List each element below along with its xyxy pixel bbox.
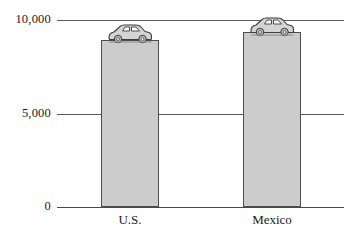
bar-us[interactable] [101, 40, 159, 207]
y-axis-labels: 10,000 5,000 0 [0, 20, 51, 207]
x-tick-label-us: U.S. [101, 212, 159, 228]
plot-area [57, 20, 344, 207]
bar-mexico[interactable] [243, 32, 301, 207]
axis-baseline-0 [57, 207, 344, 208]
car-icon [249, 14, 295, 37]
x-tick-label-mexico: Mexico [243, 212, 301, 228]
y-tick-label-5000: 5,000 [22, 106, 51, 121]
gridline-10000 [57, 20, 344, 21]
car-icon [107, 21, 153, 44]
y-tick-label-10000: 10,000 [15, 12, 51, 27]
y-tick-label-0: 0 [45, 199, 51, 214]
bar-chart: 10,000 5,000 0 [0, 0, 356, 239]
